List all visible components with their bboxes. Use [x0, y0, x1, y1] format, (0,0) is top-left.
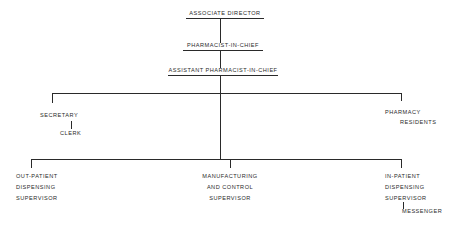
connector	[31, 159, 32, 168]
node-assistant-pharmacist-in-chief: ASSISTANT PHARMACIST-IN-CHIEF	[168, 67, 278, 76]
node-in-patient-line1: IN-PATIENT	[385, 173, 420, 180]
node-pharmacist-in-chief: PHARMACIST-IN-CHIEF	[183, 42, 263, 51]
node-pharmacy-residents-line2: RESIDENTS	[400, 119, 437, 126]
connector	[52, 93, 53, 103]
node-in-patient-line3: SUPERVISOR	[385, 195, 427, 202]
node-associate-director: ASSOCIATE DIRECTOR	[186, 10, 264, 19]
node-clerk: CLERK	[60, 130, 81, 137]
node-out-patient-line3: SUPERVISOR	[16, 195, 58, 202]
connector	[230, 159, 231, 168]
node-manufacturing-line3: SUPERVISOR	[190, 195, 270, 202]
node-secretary: SECRETARY	[40, 112, 78, 119]
org-chart: ASSOCIATE DIRECTOR PHARMACIST-IN-CHIEF A…	[0, 0, 450, 227]
connector-supervisor-bar	[31, 159, 402, 160]
connector	[220, 19, 221, 43]
node-pharmacy-residents-line1: PHARMACY	[385, 109, 421, 116]
node-messenger: MESSENGER	[402, 208, 442, 215]
connector	[401, 93, 402, 101]
node-in-patient-line2: DISPENSING	[385, 184, 425, 191]
node-manufacturing-line2: AND CONTROL	[190, 184, 270, 191]
connector	[220, 51, 221, 68]
connector-trunk	[220, 76, 221, 160]
connector	[401, 159, 402, 168]
connector-staff-bar	[52, 93, 402, 94]
node-out-patient-line2: DISPENSING	[16, 184, 56, 191]
connector	[71, 121, 72, 129]
node-manufacturing-line1: MANUFACTURING	[190, 173, 270, 180]
node-out-patient-line1: OUT-PATIENT	[16, 173, 58, 180]
